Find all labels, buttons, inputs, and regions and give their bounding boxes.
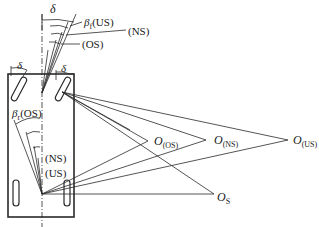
front-ray-s <box>62 92 214 194</box>
beta-r-label: βr(OS) <box>12 108 42 122</box>
front-left-wheel <box>10 76 28 102</box>
turning-center-ns-label: O(NS) <box>214 134 238 149</box>
delta-label-top: δ <box>50 3 56 15</box>
turning-center-s-label: OS <box>217 191 230 206</box>
turning-center-us-label: O(US) <box>293 134 317 149</box>
front-right-wheel <box>54 76 72 102</box>
front-ns-label: (NS) <box>128 26 149 37</box>
front-ray-us <box>62 92 288 140</box>
rear-ns-label: (NS) <box>45 153 66 164</box>
front-os-label: (OS) <box>82 39 103 50</box>
steering-geometry-diagram <box>0 0 319 227</box>
beta-f-label: βf(US) <box>84 17 114 31</box>
rear-us-label: (US) <box>45 168 66 179</box>
delta-label-right-wheel: δ <box>61 63 66 74</box>
rear-left-wheel <box>13 180 19 206</box>
delta-arc-top <box>42 19 74 22</box>
rear-ray-ns <box>42 140 206 194</box>
delta-label-left-wheel: δ <box>17 60 22 71</box>
rear-right-wheel <box>64 180 70 206</box>
turning-center-os-label: O(OS) <box>154 135 178 150</box>
